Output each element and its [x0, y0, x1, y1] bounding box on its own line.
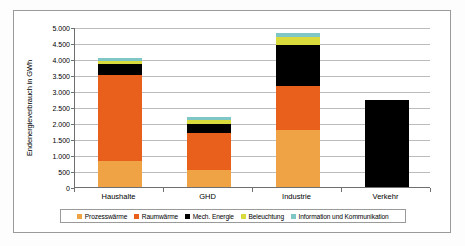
- legend-swatch-icon: [134, 214, 139, 219]
- legend-label: Information und Kommunikation: [298, 213, 388, 220]
- bar-segment: [276, 86, 320, 130]
- y-axis-tick-label: 2.000: [52, 121, 70, 128]
- y-axis-tick-label: 4.500: [52, 41, 70, 48]
- bar-segment: [276, 130, 320, 187]
- y-axis-tickmark: [71, 28, 75, 29]
- y-axis-tickmark: [71, 140, 75, 141]
- x-axis-tickmark: [74, 188, 75, 192]
- legend-label: Prozesswärme: [85, 213, 127, 220]
- gridline: [75, 44, 430, 45]
- legend-item: Prozesswärme: [77, 213, 127, 220]
- bar-segment: [187, 124, 231, 133]
- y-axis-tick-label: 2.500: [52, 105, 70, 112]
- legend-swatch-icon: [241, 214, 246, 219]
- bar-segment: [98, 161, 142, 187]
- y-axis-tickmark: [71, 44, 75, 45]
- y-axis-tickmark: [71, 156, 75, 157]
- bar-segment: [276, 37, 320, 45]
- bar-segment: [98, 75, 142, 160]
- x-axis-label-haushalte: Haushalte: [102, 192, 136, 201]
- x-axis-label-industrie: Industrie: [282, 192, 311, 201]
- chart-legend: ProzesswärmeRaumwärmeMech. EnergieBeleuc…: [60, 209, 406, 223]
- bar-segment: [98, 64, 142, 75]
- y-axis-tick-label: 5.000: [52, 25, 70, 32]
- legend-swatch-icon: [77, 214, 82, 219]
- bar-segment: [187, 133, 231, 170]
- x-axis-tickmark: [252, 188, 253, 192]
- y-axis-tickmark: [71, 60, 75, 61]
- bar-industrie: [276, 33, 320, 187]
- y-axis-tick-label: 4.000: [52, 57, 70, 64]
- x-axis-tickmark: [341, 188, 342, 192]
- legend-label: Mech. Energie: [193, 213, 234, 220]
- legend-item: Information und Kommunikation: [291, 213, 389, 220]
- plot-area: 05001.0001.5002.0002.5003.0003.5004.0004…: [74, 28, 430, 188]
- y-axis-tick-label: 0: [66, 185, 70, 192]
- legend-item: Raumwärme: [134, 213, 178, 220]
- legend-label: Raumwärme: [142, 213, 178, 220]
- y-axis-tick-label: 1.000: [52, 153, 70, 160]
- gridline: [75, 28, 430, 29]
- y-axis-tick-label: 3.500: [52, 73, 70, 80]
- y-axis-tickmark: [71, 124, 75, 125]
- legend-swatch-icon: [185, 214, 190, 219]
- x-axis-label-ghd: GHD: [199, 192, 216, 201]
- bar-haushalte: [98, 58, 142, 187]
- bar-segment: [187, 170, 231, 187]
- legend-item: Beleuchtung: [241, 213, 284, 220]
- y-axis-tick-label: 3.000: [52, 89, 70, 96]
- x-axis-tickmark: [163, 188, 164, 192]
- bar-segment: [365, 100, 409, 187]
- bar-ghd: [187, 117, 231, 187]
- bar-segment: [276, 45, 320, 86]
- legend-item: Mech. Energie: [185, 213, 234, 220]
- legend-label: Beleuchtung: [248, 213, 284, 220]
- y-axis-tick-label: 1.500: [52, 137, 70, 144]
- y-axis-tick-label: 500: [58, 169, 70, 176]
- y-axis-tickmark: [71, 172, 75, 173]
- legend-swatch-icon: [291, 214, 296, 219]
- chart-figure: Endenergieverbrauch in GWh 05001.0001.50…: [0, 0, 465, 246]
- bar-verkehr: [365, 100, 409, 187]
- y-axis-tickmark: [71, 92, 75, 93]
- x-axis-tickmark: [430, 188, 431, 192]
- x-axis-label-verkehr: Verkehr: [373, 192, 399, 201]
- y-axis-title: Endenergieverbrauch in GWh: [24, 28, 36, 188]
- y-axis-tickmark: [71, 76, 75, 77]
- y-axis-tickmark: [71, 108, 75, 109]
